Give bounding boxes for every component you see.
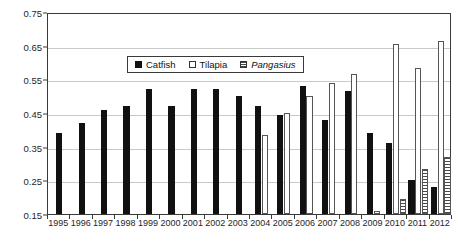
bar-catfish-2004 (255, 106, 261, 214)
x-axis-tick-label: 2012 (430, 218, 450, 228)
bar-pangasius-2012 (444, 157, 450, 214)
x-axis-tick-label: 2005 (273, 218, 293, 228)
x-axis-tick-label: 2004 (250, 218, 270, 228)
bar-catfish-2008 (345, 91, 351, 214)
legend-swatch-icon (189, 61, 196, 68)
bar-tilapia-2004 (262, 135, 268, 214)
bar-tilapia-2005 (284, 113, 290, 214)
y-axis-tick-label: 0.75 (2, 8, 42, 19)
x-axis-tick-label: 2009 (362, 218, 382, 228)
legend-swatch-icon (240, 61, 247, 68)
bar-tilapia-2012 (438, 41, 444, 214)
bar-chart: 0.750.650.550.450.350.250.15 19951996199… (0, 0, 458, 248)
x-axis-tick-mark (227, 215, 228, 219)
x-axis-tick-mark (249, 215, 250, 219)
bar-catfish-2006 (300, 86, 306, 214)
x-axis-tick-mark (204, 215, 205, 219)
y-axis-tick-label: 0.15 (2, 210, 42, 221)
legend-label: Pangasius (251, 60, 295, 70)
gridline (48, 81, 450, 82)
x-axis-tick-label: 1999 (138, 218, 158, 228)
x-axis-tick-mark (406, 215, 407, 219)
y-axis-tick-label: 0.45 (2, 109, 42, 120)
x-axis-tick-mark (429, 215, 430, 219)
x-axis-tick-mark (69, 215, 70, 219)
bar-catfish-1995 (56, 133, 62, 214)
bar-catfish-1996 (79, 123, 85, 214)
bar-catfish-2007 (322, 120, 328, 214)
plot-area (47, 13, 451, 215)
y-axis-tick-label: 0.25 (2, 176, 42, 187)
gridline (48, 48, 450, 49)
bar-catfish-2001 (191, 89, 197, 214)
x-axis-tick-mark (271, 215, 272, 219)
x-axis-tick-label: 1996 (71, 218, 91, 228)
x-axis-tick-label: 2002 (205, 218, 225, 228)
x-axis: 1995199619971998199920002001200220032004… (47, 218, 451, 242)
bar-catfish-1997 (101, 110, 107, 214)
x-axis-tick-label: 1998 (116, 218, 136, 228)
bar-tilapia-2006 (306, 96, 312, 214)
x-axis-tick-label: 2003 (228, 218, 248, 228)
x-axis-tick-mark (361, 215, 362, 219)
legend-item-tilapia[interactable]: Tilapia (189, 60, 228, 70)
bar-catfish-1999 (146, 89, 152, 214)
bar-tilapia-2011 (415, 68, 421, 214)
bar-catfish-2011 (408, 180, 414, 214)
x-axis-tick-label: 1995 (48, 218, 68, 228)
legend-label: Tilapia (200, 60, 228, 70)
bar-pangasius-2010 (400, 199, 406, 214)
y-axis-tick-label: 0.35 (2, 142, 42, 153)
x-axis-tick-label: 2001 (183, 218, 203, 228)
x-axis-tick-mark (294, 215, 295, 219)
x-axis-tick-label: 2010 (385, 218, 405, 228)
x-axis-tick-mark (339, 215, 340, 219)
x-axis-tick-mark (159, 215, 160, 219)
bar-tilapia-2010 (393, 44, 399, 214)
x-axis-tick-mark (451, 215, 452, 219)
y-axis-tick-label: 0.55 (2, 75, 42, 86)
bar-pangasius-2011 (422, 169, 428, 214)
bar-catfish-2002 (213, 89, 219, 214)
x-axis-tick-label: 2008 (340, 218, 360, 228)
legend-label: Catfish (146, 60, 176, 70)
bar-catfish-2010 (386, 143, 392, 214)
bar-catfish-1998 (123, 106, 129, 214)
x-axis-tick-label: 2000 (160, 218, 180, 228)
bar-tilapia-2007 (329, 83, 335, 214)
x-axis-tick-mark (137, 215, 138, 219)
x-axis-tick-mark (384, 215, 385, 219)
x-axis-tick-mark (47, 215, 48, 219)
bar-catfish-2005 (277, 115, 283, 214)
legend-item-catfish[interactable]: Catfish (135, 60, 176, 70)
bar-catfish-2012 (431, 187, 437, 214)
legend: CatfishTilapiaPangasius (127, 56, 304, 73)
bar-catfish-2009 (367, 133, 373, 214)
gridline (48, 115, 450, 116)
bar-catfish-2000 (168, 106, 174, 214)
x-axis-tick-mark (182, 215, 183, 219)
bar-catfish-2003 (236, 96, 242, 214)
x-axis-tick-mark (316, 215, 317, 219)
x-axis-tick-label: 1997 (93, 218, 113, 228)
y-axis-tick-label: 0.65 (2, 41, 42, 52)
legend-item-pangasius[interactable]: Pangasius (240, 60, 295, 70)
bar-tilapia-2009 (374, 211, 380, 214)
x-axis-tick-mark (114, 215, 115, 219)
x-axis-tick-label: 2007 (318, 218, 338, 228)
legend-swatch-icon (135, 61, 142, 68)
x-axis-tick-label: 2006 (295, 218, 315, 228)
x-axis-tick-mark (92, 215, 93, 219)
bar-tilapia-2008 (351, 74, 357, 214)
x-axis-tick-label: 2011 (408, 218, 427, 228)
